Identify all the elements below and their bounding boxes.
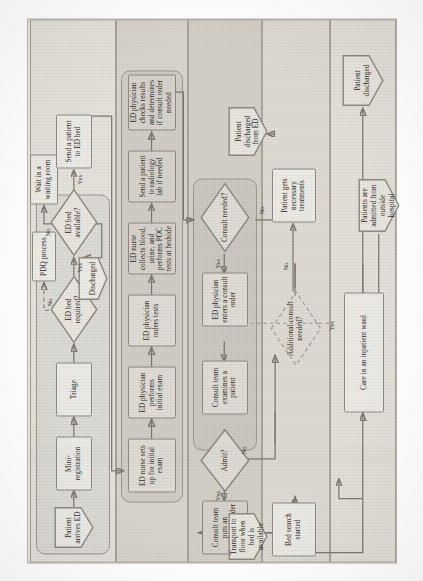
edge-label-consult-needed-no: No <box>258 206 265 214</box>
edge-label-bed-available-yes: Yes <box>76 174 83 184</box>
node-ed-physician-initial-exam[interactable]: ED physician performs initial exam <box>128 366 176 418</box>
node-patients-admitted-outside[interactable]: Patients are admitted from outside hospi… <box>358 178 400 232</box>
node-label: Patients are admitted from outside hospi… <box>361 180 396 230</box>
node-label: Triage <box>69 379 78 398</box>
node-label: Consult team examines a patient <box>211 363 237 411</box>
node-label: ED nurse collects blood, urine, and perf… <box>130 225 174 271</box>
edge-label-additional-consult-yes: Yes <box>328 320 335 330</box>
node-label: Wait in a waiting room <box>35 157 53 201</box>
node-label: ED physician orders tests <box>143 297 161 343</box>
node-label: Bed search started <box>285 505 303 553</box>
node-ed-nurse-sets-up[interactable]: ED nurse sets up for initial exam <box>128 438 176 492</box>
node-label: ED physician enters a consult order <box>211 275 237 323</box>
node-label: Patient arrives ED <box>65 508 83 546</box>
node-patient-arrives-ed[interactable]: Patient arrives ED <box>54 506 94 548</box>
node-label: Patient gets necessary treatments <box>280 171 306 219</box>
node-label: Mini-registration <box>65 439 83 487</box>
flowchart-canvas: Patient arrives ED Mini-registration Tri… <box>0 0 423 581</box>
node-additional-consult-needed[interactable]: Additional consult needed? <box>270 290 322 366</box>
edge-label-bed-required-no: No <box>46 298 53 306</box>
node-admit[interactable]: Admit? <box>200 428 250 492</box>
edge-label-admit-yes: Yes <box>214 490 221 500</box>
flowchart-rotated-frame: Patient arrives ED Mini-registration Tri… <box>27 18 397 563</box>
node-ed-physician-checks-results[interactable]: ED physician checks results and determin… <box>128 74 176 130</box>
node-label: Patient discharged from ED <box>234 108 260 154</box>
node-transport-to-floor[interactable]: Transport to floor when bed is available <box>228 512 268 560</box>
node-ed-nurse-collects[interactable]: ED nurse collects blood, urine, and perf… <box>128 222 176 274</box>
node-wait-in-waiting-room[interactable]: Wait in a waiting room <box>30 154 58 204</box>
node-label: ED physician performs initial exam <box>138 369 164 415</box>
node-label: Transport to floor when bed is available <box>230 514 265 558</box>
node-consult-team-examines[interactable]: Consult team examines a patient <box>202 360 248 414</box>
node-label: Patient discharged <box>354 56 372 104</box>
node-bed-search-started[interactable]: Bed search started <box>272 502 316 556</box>
group-ed-workup <box>121 70 183 502</box>
node-label: Care in an inpatient ward <box>359 314 368 389</box>
node-label: Admit? <box>220 443 229 477</box>
node-label: Send a patient to ED bed <box>65 117 83 165</box>
node-send-patient-radiology[interactable]: Send a patient to radiology lab if neede… <box>128 150 176 202</box>
node-consult-needed[interactable]: Consult needed? <box>200 182 250 252</box>
edge-label-admit-no: No <box>240 446 247 454</box>
node-label: Consult needed? <box>220 186 229 247</box>
node-label: Additional consult needed? <box>287 292 305 364</box>
node-mini-registration[interactable]: Mini-registration <box>56 436 92 490</box>
edge-label-bed-available-no: No <box>44 228 51 236</box>
node-ed-physician-orders-tests[interactable]: ED physician orders tests <box>128 294 176 346</box>
node-label: Discharged <box>88 258 97 298</box>
node-label: PDQ process <box>39 237 48 276</box>
node-care-inpatient-ward[interactable]: Care in an inpatient ward <box>344 292 384 412</box>
node-patient-gets-treatments[interactable]: Patient gets necessary treatments <box>272 168 316 222</box>
node-label: ED bed available? <box>65 190 83 254</box>
edge-label-bed-required-yes: Yes <box>76 262 83 272</box>
node-label: Send a patient to radiology lab if neede… <box>138 153 164 199</box>
node-patient-discharged-from-ed[interactable]: Patient discharged from ED <box>228 106 268 156</box>
node-triage[interactable]: Triage <box>56 362 92 416</box>
node-patient-discharged[interactable]: Patient discharged <box>342 54 384 106</box>
node-label: ED nurse sets up for initial exam <box>138 441 164 489</box>
edge-label-additional-consult-no: No <box>282 262 289 270</box>
edge-label-consult-needed-yes: Yes <box>214 258 221 268</box>
node-label: ED physician checks results and determin… <box>130 77 174 127</box>
node-ed-physician-enters-consult-order[interactable]: ED physician enters a consult order <box>202 272 248 326</box>
node-send-patient-to-ed-bed[interactable]: Send a patient to ED bed <box>56 114 92 168</box>
